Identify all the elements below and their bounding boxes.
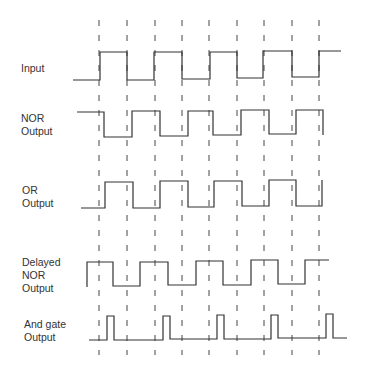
and-gate-waveform xyxy=(89,314,347,340)
or-waveform xyxy=(81,180,322,208)
nor-waveform xyxy=(77,110,323,137)
timing-diagram xyxy=(0,0,366,373)
dashed-timing-lines xyxy=(99,20,319,355)
input-waveform xyxy=(73,51,341,80)
delayed-nor-waveform xyxy=(87,260,329,287)
